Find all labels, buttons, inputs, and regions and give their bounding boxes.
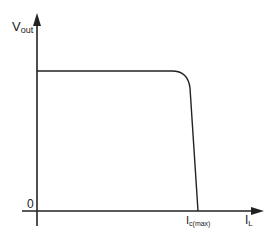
x-axis-arrow-icon: [251, 207, 264, 215]
y-axis-label: Vout: [12, 19, 34, 35]
load-characteristic-diagram: Vout 0 Ic(max) IL: [0, 0, 274, 235]
y-axis-arrow-icon: [33, 13, 41, 26]
origin-label: 0: [27, 197, 34, 211]
x-tick-label: Ic(max): [186, 214, 210, 228]
output-curve: [37, 71, 198, 211]
x-axis-label: IL: [245, 213, 253, 228]
